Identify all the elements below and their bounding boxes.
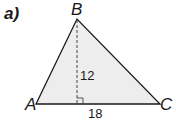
vertex-label-c: C — [160, 96, 172, 113]
base-value: 18 — [88, 107, 102, 120]
vertex-label-a: A — [25, 96, 36, 113]
vertex-label-b: B — [71, 1, 82, 18]
triangle-abc — [36, 19, 160, 104]
height-value: 12 — [80, 69, 94, 82]
